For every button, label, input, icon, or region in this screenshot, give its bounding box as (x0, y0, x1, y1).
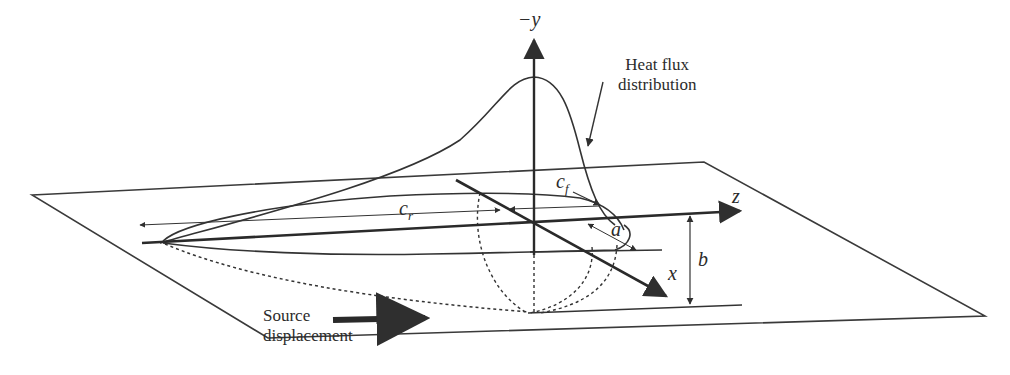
dashed-bowl-right (530, 247, 592, 313)
base-plane (32, 162, 985, 338)
x-axis (456, 180, 666, 296)
label-neg-y: −y (518, 8, 540, 31)
heat-flux-pointer (588, 82, 603, 146)
label-c-f-sub: f (565, 181, 569, 196)
label-c-r-sub: r (408, 208, 413, 223)
heat-flux-line2: distribution (618, 75, 696, 95)
label-c-r: cr (399, 197, 413, 224)
label-c-f: cf (556, 170, 569, 197)
source-line2: displacement (263, 326, 353, 346)
label-z: z (732, 185, 740, 208)
dashed-bowl-right2 (540, 245, 617, 313)
c-r-dimension (140, 210, 500, 225)
source-line1: Source (263, 306, 353, 326)
heat-flux-line1: Heat flux (618, 55, 696, 75)
label-b: b (698, 248, 708, 271)
diagram-drawing (0, 0, 1010, 375)
heat-flux-curve (160, 77, 615, 243)
label-c-r-main: c (399, 197, 408, 219)
label-x: x (668, 262, 677, 285)
label-a: a (611, 218, 621, 241)
label-c-f-main: c (556, 170, 565, 192)
heat-flux-caption: Heat flux distribution (618, 55, 696, 95)
heat-source-diagram: −y z x b a cr cf Heat flux distribution … (0, 0, 1010, 375)
source-displacement-caption: Source displacement (263, 306, 353, 346)
c-f-dimension (510, 206, 600, 209)
ellipsoid-lower-line (530, 250, 662, 252)
